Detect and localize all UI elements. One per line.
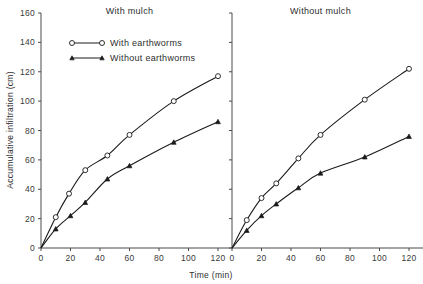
data-point-1-0-1 — [244, 218, 249, 223]
y-axis-title: Accumulative infiltration (cm) — [5, 71, 15, 189]
data-point-1-0-5 — [318, 132, 323, 137]
series-line-0-0 — [41, 76, 218, 248]
x-tick-label-1-20: 20 — [256, 253, 266, 263]
legend-label-1: Without earthworms — [110, 53, 196, 63]
y-tick-label-20: 20 — [25, 214, 35, 224]
series-line-1-1 — [232, 136, 409, 248]
infiltration-chart-figure: 020406080100120140160020406080100120With… — [0, 0, 423, 284]
x-tick-label-1-60: 60 — [315, 253, 325, 263]
data-point-0-1-7 — [216, 119, 221, 123]
data-point-1-1-7 — [407, 134, 412, 138]
data-point-1-0-4 — [296, 156, 301, 161]
chart-canvas: 020406080100120140160020406080100120With… — [0, 0, 423, 284]
y-tick-label-160: 160 — [20, 8, 35, 18]
data-point-1-0-7 — [407, 66, 412, 71]
data-point-0-1-5 — [127, 163, 132, 167]
data-point-1-0-6 — [362, 97, 367, 102]
y-tick-label-0: 0 — [30, 243, 35, 253]
data-point-0-0-7 — [216, 74, 221, 79]
y-tick-label-60: 60 — [25, 155, 35, 165]
x-tick-label-0-120: 120 — [210, 253, 225, 263]
x-tick-label-1-40: 40 — [286, 253, 296, 263]
x-tick-label-1-100: 100 — [372, 253, 387, 263]
data-point-1-0-2 — [259, 196, 264, 201]
legend-label-0: With earthworms — [110, 38, 182, 48]
panel-with-mulch — [38, 13, 233, 251]
data-point-0-0-4 — [105, 153, 110, 158]
series-line-0-1 — [41, 122, 218, 248]
panel-title-0: With mulch — [106, 6, 154, 16]
data-point-0-0-1 — [53, 215, 58, 220]
x-axis-title: Time (min) — [189, 270, 232, 280]
legend-marker-0-1 — [100, 41, 105, 46]
x-tick-label-0-80: 80 — [154, 253, 164, 263]
x-tick-label-0-20: 20 — [65, 253, 75, 263]
data-point-0-0-6 — [171, 99, 176, 104]
panel-title-1: Without mulch — [290, 6, 351, 16]
x-tick-label-0-100: 100 — [181, 253, 196, 263]
y-tick-label-100: 100 — [20, 96, 35, 106]
chart-legend — [70, 41, 105, 60]
data-point-0-0-2 — [67, 191, 72, 196]
y-tick-label-80: 80 — [25, 126, 35, 136]
x-tick-label-1-120: 120 — [401, 253, 416, 263]
y-tick-label-120: 120 — [20, 67, 35, 77]
x-tick-label-0-40: 40 — [95, 253, 105, 263]
data-point-1-0-3 — [274, 181, 279, 186]
panel-without-mulch — [229, 13, 423, 251]
y-tick-label-40: 40 — [25, 184, 35, 194]
x-tick-label-0-60: 60 — [124, 253, 134, 263]
data-point-0-0-3 — [83, 168, 88, 173]
data-point-0-1-6 — [171, 140, 176, 144]
series-line-1-0 — [232, 69, 409, 248]
x-tick-label-1-80: 80 — [345, 253, 355, 263]
y-tick-label-140: 140 — [20, 37, 35, 47]
x-tick-label-0-0: 0 — [38, 253, 43, 263]
x-tick-label-1-0: 0 — [229, 253, 234, 263]
legend-marker-0-0 — [70, 41, 75, 46]
data-point-0-0-5 — [127, 132, 132, 137]
